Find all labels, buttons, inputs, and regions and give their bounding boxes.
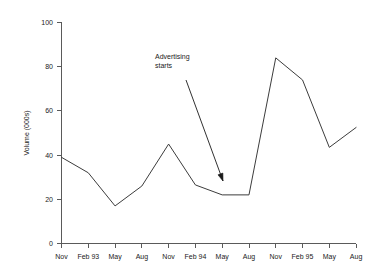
x-tick-label-0: Nov	[55, 253, 68, 260]
x-axis-ticks	[62, 244, 357, 249]
y-axis-title: Volume (000s)	[23, 110, 31, 155]
x-tick-label-11: Aug	[350, 253, 363, 261]
data-series-line	[62, 58, 357, 206]
chart-container: 100 80 60 40 20 0 Volume (000s) Nov	[0, 0, 367, 275]
x-tick-label-8: Nov	[270, 253, 283, 260]
line-chart: 100 80 60 40 20 0 Volume (000s) Nov	[0, 0, 367, 275]
x-tick-label-9: Feb 95	[292, 253, 314, 260]
y-tick-label-0: 0	[49, 240, 53, 247]
x-axis-tick-labels: Nov Feb 93 May Aug Nov Feb 94 May Aug No…	[55, 253, 362, 261]
x-tick-label-5: Feb 94	[185, 253, 207, 260]
x-tick-label-3: Aug	[136, 253, 149, 261]
y-axis-tick-labels: 100 80 60 40 20 0	[41, 19, 53, 247]
y-axis-ticks	[57, 23, 62, 244]
y-tick-label-20: 20	[45, 196, 53, 203]
advertising-starts-annotation: Advertising starts	[155, 53, 223, 181]
x-tick-label-6: May	[216, 253, 230, 261]
x-tick-label-1: Feb 93	[77, 253, 99, 260]
x-tick-label-10: May	[323, 253, 337, 261]
y-tick-label-40: 40	[45, 152, 53, 159]
y-tick-label-60: 60	[45, 107, 53, 114]
x-tick-label-7: Aug	[243, 253, 256, 261]
annotation-text-line-2: starts	[155, 62, 173, 69]
annotation-arrow-head-icon	[218, 173, 223, 181]
annotation-arrow-line	[186, 80, 223, 181]
x-tick-label-4: Nov	[162, 253, 175, 260]
y-tick-label-80: 80	[45, 63, 53, 70]
annotation-text-line-1: Advertising	[155, 53, 190, 61]
y-tick-label-100: 100	[41, 19, 53, 26]
x-tick-label-2: May	[108, 253, 122, 261]
